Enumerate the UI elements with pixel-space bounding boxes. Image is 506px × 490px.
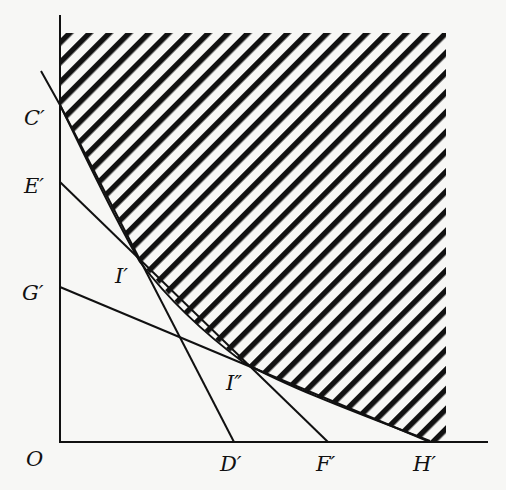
label-F: F′ bbox=[315, 452, 336, 476]
label-G: G′ bbox=[22, 281, 44, 305]
label-E: E′ bbox=[23, 174, 44, 198]
label-O: O bbox=[26, 447, 43, 471]
label-I-double-prime: I″ bbox=[225, 371, 242, 395]
label-D: D′ bbox=[219, 452, 242, 476]
label-C: C′ bbox=[24, 106, 45, 130]
label-H: H′ bbox=[412, 452, 436, 476]
label-I-prime: I′ bbox=[114, 264, 128, 288]
diagram: C′ E′ G′ O D′ F′ H′ I′ I″ bbox=[0, 0, 506, 490]
